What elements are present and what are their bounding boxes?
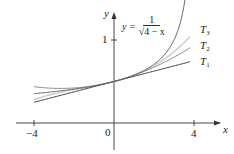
legend-label-t1: T1 xyxy=(200,56,210,69)
equation-numerator: 1 xyxy=(143,14,160,26)
equation-denominator: √4 − x xyxy=(139,26,165,38)
legend-label-t3: T3 xyxy=(200,24,210,37)
x-tick-label-4: 4 xyxy=(191,128,197,139)
x-axis-label: x xyxy=(223,124,228,135)
y-axis-label: y xyxy=(104,8,109,19)
y-axis-arrow-icon xyxy=(112,12,117,19)
t3-subscript: 3 xyxy=(206,29,210,37)
legend-label-t2: T2 xyxy=(200,40,210,53)
t2-subscript: 2 xyxy=(206,45,210,53)
equation-fraction: 1 √4 − x xyxy=(139,14,165,38)
taylor-polynomial-chart: y x 1 −4 0 4 y = 1 √4 − x T3 T2 T1 xyxy=(0,0,234,154)
x-axis-arrow-icon xyxy=(214,121,221,126)
series-group xyxy=(34,0,190,102)
x-tick-label-0: 0 xyxy=(105,127,111,138)
function-equation-label: y = 1 √4 − x xyxy=(122,14,165,38)
y-tick-label-1: 1 xyxy=(102,34,108,45)
t1-subscript: 1 xyxy=(206,61,210,69)
x-tick-label-neg4: −4 xyxy=(26,128,38,139)
equation-lhs: y = xyxy=(122,21,136,32)
